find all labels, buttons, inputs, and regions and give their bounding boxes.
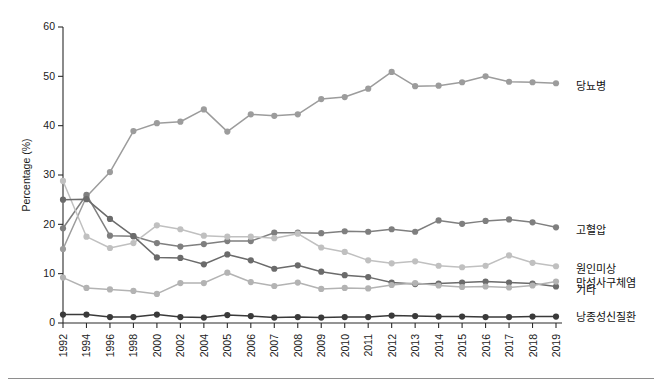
point-원인미상-2000: [154, 222, 160, 228]
point-기타-2012: [389, 282, 395, 288]
series-line-낭종성신질환: [63, 315, 556, 318]
point-고혈압-2009: [318, 230, 324, 236]
point-고혈압-2013: [412, 229, 418, 235]
point-낭종성신질환-1998: [130, 314, 136, 320]
point-원인미상-2016: [482, 263, 488, 269]
point-당뇨병-2014: [436, 83, 442, 89]
point-기타-1998: [130, 288, 136, 294]
point-낭종성신질환-2016: [482, 314, 488, 320]
point-당뇨병-2018: [529, 79, 535, 85]
point-고혈압-2004: [201, 241, 207, 247]
point-당뇨병-2012: [389, 69, 395, 75]
point-낭종성신질환-1992: [60, 312, 66, 318]
x-tick-label-2017: 2017: [503, 334, 515, 358]
point-원인미상-2017: [506, 252, 512, 258]
point-기타-2000: [154, 291, 160, 297]
point-당뇨병-2007: [271, 113, 277, 119]
point-만성사구체염-2006: [248, 257, 254, 263]
point-당뇨병-2013: [412, 83, 418, 89]
point-당뇨병-2002: [177, 119, 183, 125]
legend-group: 당뇨병고혈압원인미상만성사구체염기타낭종성신질환: [576, 80, 636, 323]
point-기타-2006: [248, 279, 254, 285]
legend-label-당뇨병: 당뇨병: [576, 80, 606, 92]
point-만성사구체염-2000: [154, 254, 160, 260]
chart-container: 0102030405060Percentage (%)1992199419961…: [0, 0, 662, 391]
x-tick-label-2009: 2009: [315, 334, 327, 358]
point-낭종성신질환-2014: [436, 313, 442, 319]
point-기타-1992: [60, 275, 66, 281]
x-tick-label-1998: 1998: [127, 334, 139, 358]
y-tick-label-60: 60: [43, 20, 55, 32]
point-만성사구체염-2002: [177, 255, 183, 261]
y-tick-label-30: 30: [43, 168, 55, 180]
legend-label-고혈압: 고혈압: [576, 223, 606, 236]
x-tick-label-2012: 2012: [386, 334, 398, 358]
point-기타-2005: [224, 270, 230, 276]
point-원인미상-2018: [529, 260, 535, 266]
y-axis-title: Percentage (%): [20, 139, 32, 212]
point-원인미상-2014: [436, 263, 442, 269]
point-만성사구체염-1998: [130, 233, 136, 239]
point-원인미상-2004: [201, 233, 207, 239]
x-tick-label-2002: 2002: [174, 334, 186, 358]
point-기타-2018: [529, 282, 535, 288]
point-당뇨병-1996: [107, 169, 113, 175]
y-tick-label-0: 0: [49, 316, 55, 328]
x-tick-label-2008: 2008: [292, 334, 304, 358]
point-만성사구체염-1992: [60, 197, 66, 203]
point-기타-2004: [201, 280, 207, 286]
point-당뇨병-2006: [248, 111, 254, 117]
point-원인미상-2007: [271, 235, 277, 241]
point-고혈압-2015: [459, 221, 465, 227]
point-당뇨병-2000: [154, 120, 160, 126]
point-기타-2011: [365, 285, 371, 291]
series-당뇨병: [60, 69, 559, 252]
point-낭종성신질환-1994: [83, 312, 89, 318]
point-만성사구체염-2010: [342, 272, 348, 278]
x-tick-label-2007: 2007: [268, 334, 280, 358]
point-고혈압-2019: [553, 224, 559, 230]
point-당뇨병-2005: [224, 128, 230, 134]
point-기타-2017: [506, 284, 512, 290]
point-낭종성신질환-2019: [553, 313, 559, 319]
point-만성사구체염-2007: [271, 266, 277, 272]
point-기타-1994: [83, 285, 89, 291]
point-원인미상-2019: [553, 263, 559, 269]
point-당뇨병-2008: [295, 111, 301, 117]
point-원인미상-2010: [342, 249, 348, 255]
point-당뇨병-1998: [130, 128, 136, 134]
x-tick-label-2015: 2015: [456, 334, 468, 358]
point-만성사구체염-1996: [107, 216, 113, 222]
x-tick-label-1992: 1992: [57, 334, 69, 358]
point-기타-2007: [271, 283, 277, 289]
point-낭종성신질환-2012: [389, 313, 395, 319]
legend-label-낭종성신질환: 낭종성신질환: [576, 311, 636, 323]
series-line-원인미상: [63, 181, 556, 267]
point-고혈압-2011: [365, 229, 371, 235]
point-원인미상-2002: [177, 226, 183, 232]
x-tick-label-2014: 2014: [433, 334, 445, 358]
series-line-만성사구체염: [63, 199, 556, 286]
point-당뇨병-2004: [201, 106, 207, 112]
x-tick-label-2005: 2005: [221, 334, 233, 358]
point-기타-2010: [342, 285, 348, 291]
x-tick-label-2013: 2013: [409, 334, 421, 358]
point-낭종성신질환-2009: [318, 314, 324, 320]
point-낭종성신질환-2018: [529, 313, 535, 319]
legend-label-기타: 기타: [576, 284, 596, 296]
point-고혈압-2010: [342, 228, 348, 234]
x-tick-label-2016: 2016: [480, 334, 492, 358]
point-만성사구체염-1994: [83, 196, 89, 202]
series-원인미상: [60, 178, 559, 271]
point-원인미상-1994: [83, 234, 89, 240]
x-tick-label-2010: 2010: [339, 334, 351, 358]
point-당뇨병-2016: [482, 73, 488, 79]
bottom-divider: [8, 378, 654, 379]
series-line-당뇨병: [63, 72, 556, 249]
point-기타-2009: [318, 286, 324, 292]
point-원인미상-2012: [389, 260, 395, 266]
point-기타-2016: [482, 283, 488, 289]
point-만성사구체염-2008: [295, 262, 301, 268]
point-고혈압-2012: [389, 226, 395, 232]
y-tick-label-50: 50: [43, 70, 55, 82]
